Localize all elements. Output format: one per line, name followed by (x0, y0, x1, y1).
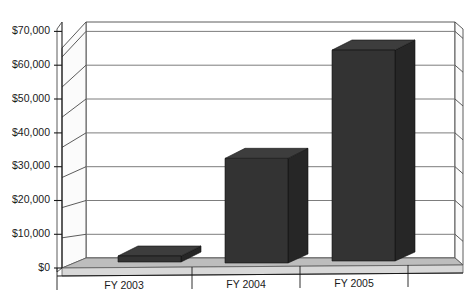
y-tick-label: $50,000 (12, 92, 50, 104)
y-tick-label: $70,000 (12, 24, 50, 36)
bar-fy-2004-side (288, 148, 308, 263)
bar-fy-2005-side (395, 40, 415, 261)
bar-fy-2003-front (118, 256, 181, 262)
bar-chart-3d: $70,000 $60,000 $50,000 $40,000 $30,000 … (0, 0, 469, 297)
bar-fy-2005[interactable] (332, 40, 415, 261)
right-wall (455, 22, 463, 265)
y-tick-label: $30,000 (12, 159, 50, 171)
y-axis-cap-top (57, 22, 62, 29)
x-tick-label-fy-2003: FY 2003 (104, 279, 144, 291)
y-tick-label: $60,000 (12, 58, 50, 70)
y-tick-label: $40,000 (12, 126, 50, 138)
x-axis-category-labels: FY 2003 FY 2004 FY 2005 (104, 277, 374, 291)
chart-canvas: $70,000 $60,000 $50,000 $40,000 $30,000 … (0, 0, 469, 297)
y-axis-cap-bottom (57, 268, 62, 272)
y-tick-label: $20,000 (12, 193, 50, 205)
y-tick-label: $10,000 (12, 227, 50, 239)
bar-fy-2004-front (225, 158, 288, 263)
x-tick-label-fy-2005: FY 2005 (334, 277, 374, 289)
y-tick-marks (54, 31, 62, 268)
bar-fy-2004[interactable] (225, 148, 308, 263)
y-tick-label: $0 (38, 261, 50, 273)
y-axis-tick-labels: $70,000 $60,000 $50,000 $40,000 $30,000 … (12, 24, 50, 273)
bar-fy-2005-front (332, 50, 395, 261)
x-tick-label-fy-2004: FY 2004 (226, 278, 266, 290)
